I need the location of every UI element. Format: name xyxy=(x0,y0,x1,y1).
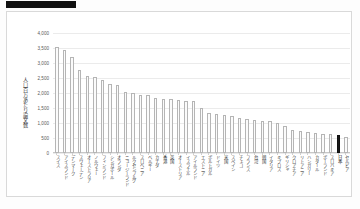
bar-slot xyxy=(205,33,213,153)
x-tick-label: ルクセンブルグ xyxy=(130,155,135,182)
x-tick-label: ポーランド xyxy=(321,155,326,175)
bar[interactable] xyxy=(268,121,271,153)
x-label-slot: カナダ xyxy=(152,155,160,207)
bar-slot xyxy=(175,33,183,153)
x-label-slot: シンガポール xyxy=(106,155,114,207)
x-tick-label: ニュージーランド xyxy=(123,155,128,186)
bar[interactable] xyxy=(101,80,104,153)
x-label-slot: スロベニア xyxy=(137,155,145,207)
x-tick-label: イタリア xyxy=(267,155,272,171)
chart-frame: 人口百万あたり論文数 4,0003,5003,0002,5002,0001,50… xyxy=(6,11,352,197)
bar[interactable] xyxy=(261,121,264,153)
x-tick-label: ポルトガル xyxy=(207,155,212,175)
bar[interactable] xyxy=(116,85,119,153)
bar-slot xyxy=(327,33,335,153)
redaction-bar xyxy=(6,1,76,8)
bar-slot xyxy=(304,33,312,153)
bar[interactable] xyxy=(238,118,241,153)
bar-slot xyxy=(182,33,190,153)
bar[interactable] xyxy=(86,76,89,153)
x-tick-label: イスラエル xyxy=(184,155,189,175)
bar-slot xyxy=(213,33,221,153)
bar-slot xyxy=(83,33,91,153)
x-tick-label: フィンランド xyxy=(100,155,105,178)
x-tick-label: アイスランド xyxy=(62,155,67,178)
bar[interactable] xyxy=(230,116,233,153)
x-tick-label: シンガポール xyxy=(108,155,113,178)
bar[interactable] xyxy=(329,134,332,153)
bar[interactable] xyxy=(253,120,256,153)
bar-slot xyxy=(289,33,297,153)
x-tick-label: フランス xyxy=(245,155,250,171)
bar[interactable] xyxy=(276,123,279,153)
x-tick-label: ギリシャ xyxy=(283,155,288,171)
x-label-slot: エストニア xyxy=(198,155,206,207)
bar[interactable] xyxy=(291,130,294,153)
bar[interactable] xyxy=(154,98,157,153)
x-tick-label: ドイツ xyxy=(214,155,219,167)
bar[interactable] xyxy=(162,99,165,153)
bar[interactable] xyxy=(321,134,324,153)
bar[interactable] xyxy=(192,101,195,153)
x-label-slot: オランダ xyxy=(114,155,122,207)
bar-slot xyxy=(198,33,206,153)
bar[interactable] xyxy=(314,133,317,153)
y-tick-label: 3,500 xyxy=(38,46,50,51)
bar-slot xyxy=(114,33,122,153)
x-label-slot: オーストリア xyxy=(175,155,183,207)
x-label-slot: ニュージーランド xyxy=(121,155,129,207)
x-tick-label: 韓国 xyxy=(260,155,265,163)
x-label-slot: フランス xyxy=(243,155,251,207)
bar[interactable] xyxy=(131,93,134,153)
bar-slot xyxy=(167,33,175,153)
x-tick-label: エストニア xyxy=(199,155,204,175)
x-tick-label: キプロス xyxy=(275,155,280,171)
bar[interactable] xyxy=(93,77,96,154)
bar[interactable] xyxy=(63,50,66,154)
bar[interactable] xyxy=(245,119,248,153)
bar[interactable] xyxy=(215,114,218,153)
bar[interactable] xyxy=(200,108,203,153)
bar-slot xyxy=(220,33,228,153)
bar[interactable] xyxy=(146,95,149,153)
x-label-slot: オーストラリア xyxy=(83,155,91,207)
bar[interactable] xyxy=(124,92,127,153)
bar-slot xyxy=(228,33,236,153)
bar[interactable] xyxy=(207,113,210,154)
x-tick-label: ノルウェー xyxy=(92,155,97,175)
plot-area xyxy=(53,33,350,153)
bar[interactable] xyxy=(55,47,58,153)
y-tick-label: 1,000 xyxy=(38,121,50,126)
bar[interactable] xyxy=(139,95,142,153)
bar[interactable] xyxy=(70,57,73,153)
bar[interactable] xyxy=(177,100,180,153)
bar[interactable] xyxy=(108,84,111,153)
bar-slot xyxy=(137,33,145,153)
x-label-slot: イスラエル xyxy=(182,155,190,207)
y-tick-label: 4,000 xyxy=(38,31,50,36)
bar[interactable] xyxy=(283,126,286,153)
bar-slot xyxy=(91,33,99,153)
bar[interactable] xyxy=(169,99,172,153)
x-tick-label: セルビア xyxy=(344,155,349,171)
bar-slot xyxy=(236,33,244,153)
bar[interactable] xyxy=(306,132,309,153)
x-label-slot: ハンガリー xyxy=(304,155,312,207)
bar-slot xyxy=(53,33,61,153)
bar-highlighted[interactable] xyxy=(337,135,340,153)
bar[interactable] xyxy=(344,137,347,153)
bar[interactable] xyxy=(78,70,81,153)
bar[interactable] xyxy=(184,101,187,153)
x-label-slot: ポルトガル xyxy=(205,155,213,207)
x-tick-label: ベルギー xyxy=(146,155,151,171)
x-label-slot: ルクセンブルグ xyxy=(129,155,137,207)
x-label-slot: ベルギー xyxy=(144,155,152,207)
x-tick-label: 台湾 xyxy=(252,155,257,163)
bar-slot xyxy=(152,33,160,153)
x-tick-label: オーストラリア xyxy=(85,155,90,182)
bar[interactable] xyxy=(223,115,226,153)
bar-slot xyxy=(266,33,274,153)
x-label-slot: イタリア xyxy=(266,155,274,207)
x-label-slot: リトアニア xyxy=(297,155,305,207)
bar[interactable] xyxy=(299,131,302,153)
